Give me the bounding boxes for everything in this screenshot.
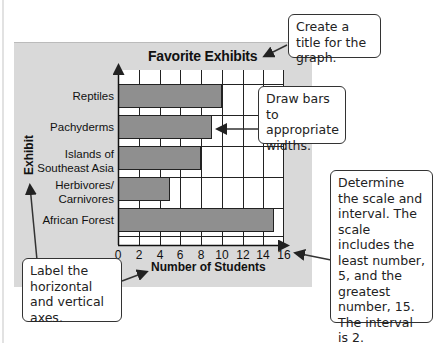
callout-axes: Label the horizontal and vertical axes. bbox=[22, 258, 122, 322]
callout-scale: Determine the scale and interval. The sc… bbox=[330, 170, 433, 323]
callout-title: Create a title for the graph. bbox=[288, 14, 381, 58]
callout-bars: Draw bars to appropriate widths. bbox=[258, 86, 346, 144]
